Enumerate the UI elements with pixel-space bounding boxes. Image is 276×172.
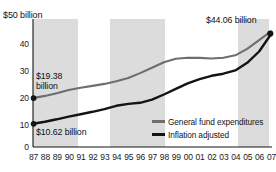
endpoint-marker-inflation-start (31, 121, 37, 127)
y-axis-top-label: $50 billion (3, 10, 42, 20)
endpoint-marker-general-fund-start (31, 95, 37, 101)
chart-container: $50 billion 40 30 20 10 0 $19.38 billion… (0, 0, 276, 172)
annotation-general-fund-start-unit: billion (36, 82, 58, 92)
x-tick-07: 07 (261, 152, 276, 162)
endpoint-marker-inflation-end (267, 30, 273, 36)
legend-item-inflation-adjusted: Inflation adjusted (152, 129, 272, 140)
legend-swatch-inflation-adjusted (152, 133, 165, 136)
annotation-end-value: $44.06 billion (206, 16, 256, 26)
annotation-inflation-start-value: $10.62 billion (36, 128, 86, 138)
legend-swatch-general-fund-expenditures (152, 120, 165, 122)
y-tick-30: 30 (10, 66, 29, 76)
legend-label-general-fund-expenditures: General fund expenditures (168, 117, 263, 127)
legend-item-general-fund-expenditures: General fund expenditures (152, 116, 272, 127)
chart-legend: General fund expenditures Inflation adju… (152, 116, 272, 142)
legend-label-inflation-adjusted: Inflation adjusted (168, 130, 229, 140)
y-tick-10: 10 (10, 120, 29, 130)
y-tick-20: 20 (10, 93, 29, 103)
y-tick-0: 0 (10, 142, 29, 152)
y-tick-40: 40 (10, 39, 29, 49)
